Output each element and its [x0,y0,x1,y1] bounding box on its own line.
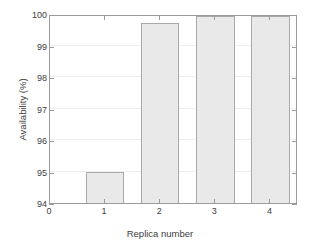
plot-area [49,15,297,204]
y-tick-mark [292,78,297,79]
y-tick-label: 98 [37,74,47,83]
x-tick-mark [49,15,50,20]
x-tick-mark [104,15,105,20]
x-tick-mark [214,15,215,20]
y-tick-label: 99 [37,43,47,52]
x-tick-mark [269,199,270,204]
y-tick-mark [49,173,54,174]
bar [196,16,235,203]
x-tick-mark [159,15,160,20]
x-axis-title: Replica number [0,228,320,239]
bar [141,23,180,203]
y-axis-title: Availability (%) [17,35,28,185]
y-tick-mark [49,204,54,205]
x-tick-mark [159,199,160,204]
y-tick-label: 97 [37,106,47,115]
x-tick-label: 4 [259,207,279,216]
y-tick-mark [49,47,54,48]
x-tick-label: 2 [149,207,169,216]
x-tick-mark [104,199,105,204]
y-tick-mark [49,141,54,142]
x-tick-label: 1 [94,207,114,216]
y-tick-label: 100 [32,11,47,20]
bar [251,16,290,203]
y-tick-mark [292,204,297,205]
y-tick-mark [292,141,297,142]
x-tick-label: 0 [39,207,59,216]
y-tick-mark [292,15,297,16]
x-tick-mark [214,199,215,204]
y-tick-mark [292,110,297,111]
figure-canvas: 949596979899100 01234 Replica number Ava… [0,0,320,248]
x-tick-label: 3 [204,207,224,216]
y-tick-label: 95 [37,169,47,178]
y-tick-mark [292,173,297,174]
x-tick-mark [269,15,270,20]
y-tick-mark [49,78,54,79]
x-tick-mark [49,199,50,204]
y-tick-mark [49,110,54,111]
y-tick-label: 96 [37,137,47,146]
y-tick-mark [292,47,297,48]
